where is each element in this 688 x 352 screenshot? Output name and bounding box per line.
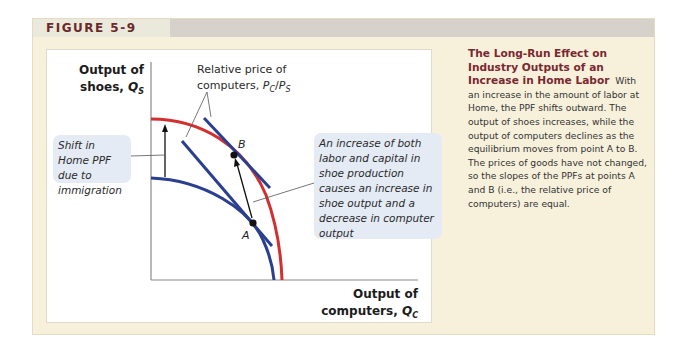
shift-callout-pointer xyxy=(131,155,165,156)
x-axis-label-text: computers, xyxy=(321,304,402,318)
relative-price-label-line1: Relative price of xyxy=(197,62,290,78)
point-a-label: A xyxy=(242,229,250,242)
price-line-lower xyxy=(182,141,272,246)
y-axis-label: Output of shoes, QS xyxy=(79,62,144,100)
point-b-marker xyxy=(230,151,237,158)
increase-callout: An increase of both labor and capital in… xyxy=(314,133,442,239)
x-axis-label: Output of computers, QC xyxy=(321,286,418,324)
x-axis-subscript: C xyxy=(412,311,418,320)
equilibrium-move-arrow-head xyxy=(234,158,240,167)
point-b-label: B xyxy=(238,138,246,151)
price-denominator-subscript: S xyxy=(285,85,290,94)
y-axis-variable: Q xyxy=(128,80,138,94)
figure-caption: The Long-Run Effect on Industry Outputs … xyxy=(468,47,650,210)
relative-price-label: Relative price of computers, PC/PS xyxy=(197,62,290,98)
caption-title: The Long-Run Effect on Industry Outputs … xyxy=(468,47,609,86)
caption-body: With an increase in the amount of labor … xyxy=(468,75,647,208)
y-axis-label-text: shoes, xyxy=(80,80,128,94)
relative-price-label-line2: computers, PC/PS xyxy=(197,78,290,98)
x-axis-label-line2: computers, QC xyxy=(321,303,418,324)
point-a-marker xyxy=(249,219,256,226)
x-axis-variable: Q xyxy=(402,304,412,318)
shift-arrow-head xyxy=(162,124,168,132)
y-axis-label-line1: Output of xyxy=(79,62,144,79)
y-axis-subscript: S xyxy=(138,87,144,96)
relative-price-label-text: computers, xyxy=(197,79,263,92)
shift-callout: Shift in Home PPF due to immigration xyxy=(53,135,131,183)
y-axis-label-line2: shoes, QS xyxy=(79,79,144,100)
x-axis-label-line1: Output of xyxy=(321,286,418,303)
